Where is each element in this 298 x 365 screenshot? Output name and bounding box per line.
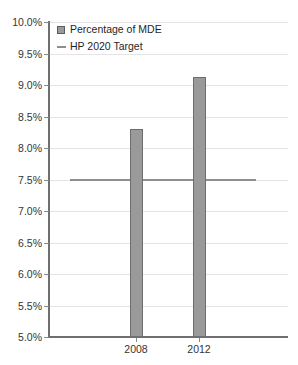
square-swatch-icon [57,26,65,34]
y-tick-7-5 [44,180,49,181]
gridline-8-5 [49,117,288,118]
y-axis-label-9-5: 9.5% [0,49,42,60]
gridline-5-5 [49,306,288,307]
bar-2008 [130,129,143,337]
x-axis-label-2008: 2008 [106,344,166,355]
gridline-6-0 [49,274,288,275]
legend-item-hp-2020-target: HP 2020 Target [57,39,207,54]
y-tick-7-0 [44,211,49,212]
chart-legend: Percentage of MDE HP 2020 Target [57,22,207,56]
y-tick-6-0 [44,274,49,275]
bar-2012 [193,77,206,337]
y-tick-9-5 [44,54,49,55]
y-tick-9-0 [44,85,49,86]
y-tick-6-5 [44,243,49,244]
legend-label-percentage-of-mde: Percentage of MDE [70,24,162,35]
legend-label-hp-2020-target: HP 2020 Target [70,41,143,52]
y-tick-8-0 [44,148,49,149]
y-tick-8-5 [44,117,49,118]
y-axis-label-7-5: 7.5% [0,175,42,186]
x-tick-2008 [136,338,137,342]
y-axis-label-10-0: 10.0% [0,17,42,28]
hp-2020-target-line [70,179,256,181]
legend-item-percentage-of-mde: Percentage of MDE [57,22,207,37]
y-axis-label-8-0: 8.0% [0,143,42,154]
line-swatch-icon [57,46,66,48]
gridline-9-0 [49,85,288,86]
y-tick-10-0 [44,22,49,23]
y-axis-label-6-0: 6.0% [0,269,42,280]
y-axis-label-8-5: 8.5% [0,112,42,123]
y-tick-5-0 [44,337,49,338]
gridline-6-5 [49,243,288,244]
y-axis-label-5-0: 5.0% [0,332,42,343]
y-axis-label-9-0: 9.0% [0,80,42,91]
x-tick-2012 [199,338,200,342]
y-axis-label-5-5: 5.5% [0,301,42,312]
x-axis-label-2012: 2012 [169,344,229,355]
gridline-8-0 [49,148,288,149]
y-axis-label-7-0: 7.0% [0,206,42,217]
plot-area [49,22,288,337]
y-tick-5-5 [44,306,49,307]
gridline-7-0 [49,211,288,212]
y-axis-label-6-5: 6.5% [0,238,42,249]
bar-chart: 10.0% 9.5% 9.0% 8.5% 8.0% 7.5% 7.0% 6.5%… [0,0,298,365]
x-axis-line [48,336,288,338]
